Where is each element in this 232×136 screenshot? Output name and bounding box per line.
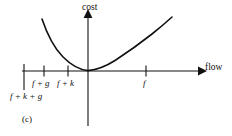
panel-caption: (c)	[22, 115, 32, 124]
y-axis-title: cost	[82, 3, 97, 13]
figure-panel-c: cost flow f + g f + k f f + k + g (c)	[0, 0, 232, 136]
cost-curve	[42, 17, 172, 71]
x-tick-label-f-plus-k-plus-g: f + k + g	[10, 92, 42, 101]
x-tick-label-f-plus-g: f + g	[32, 79, 50, 88]
x-tick-label-f-plus-k: f + k	[57, 79, 74, 88]
x-tick-label-f: f	[143, 79, 146, 88]
x-axis-title: flow	[205, 63, 222, 73]
cost-vs-flow-plot	[0, 0, 232, 136]
